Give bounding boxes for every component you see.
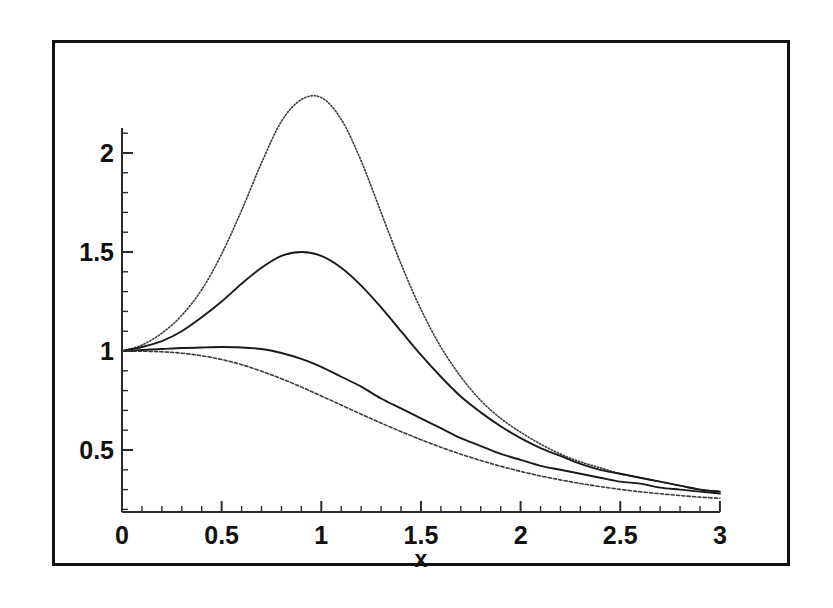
figure-root: 00.511.522.53 0.511.52 x	[0, 0, 833, 608]
x-tick-label: 2	[514, 521, 528, 550]
x-tick-label: 3	[713, 521, 727, 550]
x-tick-label: 1	[314, 521, 328, 550]
y-tick-label: 0.5	[79, 436, 114, 465]
figure-outer-frame	[52, 40, 790, 566]
x-tick-label: 0	[115, 521, 129, 550]
y-tick-label: 2	[100, 139, 114, 168]
x-tick-label: 2.5	[603, 521, 638, 550]
x-tick-label: 0.5	[204, 521, 239, 550]
y-tick-label: 1.5	[79, 238, 114, 267]
x-axis-title: x	[415, 546, 428, 573]
y-tick-label: 1	[100, 337, 114, 366]
